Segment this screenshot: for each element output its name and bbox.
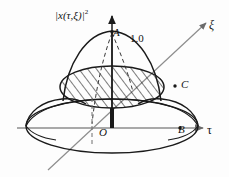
z-axis-label-base: |x(τ,ξ)| bbox=[55, 9, 85, 21]
origin-label: O bbox=[99, 127, 107, 138]
xi-axis-label: ξ bbox=[209, 19, 214, 31]
point-b-label: B bbox=[178, 124, 185, 135]
point-c-marker bbox=[173, 84, 176, 87]
z-axis-label: |x(τ,ξ)|2 bbox=[55, 9, 88, 21]
core-stub bbox=[110, 108, 114, 128]
point-c-label: C bbox=[181, 79, 188, 90]
ambiguity-function-figure: |x(τ,ξ)|2 A 1.0 ξ C O B τ bbox=[0, 0, 229, 177]
z-axis-label-exponent: 2 bbox=[85, 8, 89, 16]
point-a-label: A bbox=[113, 27, 120, 38]
tau-axis-label: τ bbox=[207, 124, 212, 136]
apex-value-label: 1.0 bbox=[130, 33, 144, 44]
